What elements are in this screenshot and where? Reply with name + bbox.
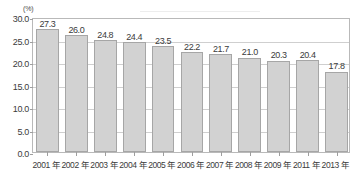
bars-group: 27.326.024.824.423.522.221.721.020.320.4… — [33, 19, 349, 152]
x-tick-label: 2005 年 — [148, 158, 176, 170]
y-axis-unit-label: (%) — [23, 5, 33, 12]
bar-value-label: 20.3 — [271, 50, 287, 60]
chart-screenshot: (%) 0.05.010.015.020.025.030.0 27.326.02… — [0, 0, 358, 178]
bar — [65, 35, 88, 152]
x-tick-mark — [279, 152, 280, 156]
y-tick-label: 30.0 — [13, 14, 29, 24]
bar — [267, 61, 290, 152]
bar-slot: 23.5 — [152, 19, 175, 152]
bar-slot: 20.3 — [267, 19, 290, 152]
x-tick-mark — [47, 152, 48, 156]
bar-value-label: 21.0 — [242, 47, 258, 57]
y-tick-mark — [30, 154, 33, 155]
x-tick-mark — [76, 152, 77, 156]
plot-area: 0.05.010.015.020.025.030.0 27.326.024.82… — [32, 18, 350, 153]
x-tick-label: 2001 年 — [33, 158, 61, 170]
x-tick-label: 2006 年 — [177, 158, 205, 170]
bar-slot: 24.4 — [123, 19, 146, 152]
bar — [209, 54, 232, 152]
bar — [123, 42, 146, 152]
bar-value-label: 26.0 — [68, 25, 84, 35]
x-tick-label: 2004 年 — [119, 158, 147, 170]
bar-value-label: 24.4 — [126, 32, 142, 42]
bar-value-label: 22.2 — [184, 42, 200, 52]
y-tick-label: 0.0 — [17, 149, 29, 159]
bar-value-label: 23.5 — [155, 36, 171, 46]
bar-slot: 24.8 — [94, 19, 117, 152]
bar — [36, 29, 59, 152]
x-tick-mark — [134, 152, 135, 156]
x-tick-mark — [163, 152, 164, 156]
bar — [181, 52, 204, 152]
x-tick-label: 2002 年 — [61, 158, 89, 170]
x-tick-label: 2009 年 — [264, 158, 292, 170]
x-tick-label: 2008 年 — [235, 158, 263, 170]
x-tick-mark — [192, 152, 193, 156]
bar-value-label: 21.7 — [213, 44, 229, 54]
bar-slot: 20.4 — [296, 19, 319, 152]
y-tick-label: 20.0 — [13, 59, 29, 69]
bar — [296, 60, 319, 152]
y-tick-label: 25.0 — [13, 37, 29, 47]
bar-value-label: 17.8 — [329, 61, 345, 71]
x-tick-mark — [337, 152, 338, 156]
bar-value-label: 27.3 — [39, 19, 55, 29]
bar — [238, 58, 261, 153]
x-tick-mark — [105, 152, 106, 156]
bar-value-label: 20.4 — [300, 50, 316, 60]
bar-slot: 27.3 — [36, 19, 59, 152]
x-tick-label: 2013 年 — [322, 158, 350, 170]
x-tick-label: 2007 年 — [206, 158, 234, 170]
scan-artifact-line — [140, 11, 260, 12]
bar-slot: 17.8 — [325, 19, 348, 152]
y-tick-label: 5.0 — [17, 127, 29, 137]
bar — [94, 40, 117, 152]
bar-slot: 21.0 — [238, 19, 261, 152]
x-tick-mark — [308, 152, 309, 156]
y-tick-label: 10.0 — [13, 104, 29, 114]
x-axis-labels: 2001 年2002 年2003 年2004 年2005 年2006 年2007… — [32, 158, 350, 172]
x-tick-label: 2003 年 — [90, 158, 118, 170]
x-tick-mark — [250, 152, 251, 156]
bar — [325, 72, 348, 152]
bar-slot: 26.0 — [65, 19, 88, 152]
bar — [152, 46, 175, 152]
bar-slot: 21.7 — [209, 19, 232, 152]
bar-slot: 22.2 — [181, 19, 204, 152]
x-tick-mark — [221, 152, 222, 156]
bar-value-label: 24.8 — [97, 30, 113, 40]
x-tick-label: 2011 年 — [293, 158, 320, 170]
y-tick-label: 15.0 — [13, 82, 29, 92]
